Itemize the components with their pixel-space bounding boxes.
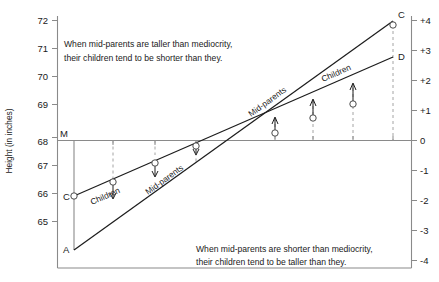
- endpoint-label-D: D: [398, 51, 405, 62]
- y-tick-right-0: +4: [420, 15, 431, 26]
- marker-children-0: [71, 193, 77, 199]
- endpoint-label-C-top: C: [398, 9, 405, 20]
- marker-children-6: [350, 101, 356, 107]
- chart-svg: 72 71 70 69 68 67 66 65 +4 +3 +2 +1 0: [0, 0, 439, 282]
- endpoint-label-A: A: [63, 244, 70, 255]
- y-tick-right-4: 0: [420, 135, 425, 146]
- marker-children-4: [272, 130, 278, 136]
- right-axis-tick-labels: +4 +3 +2 +1 0 -1 -2 -3 -4: [420, 15, 431, 266]
- y-tick-left-1: 71: [37, 43, 48, 54]
- annotation-bottom-line1: When mid-parents are shorter than medioc…: [196, 244, 373, 254]
- left-axis-ticks: [52, 21, 58, 222]
- y-tick-left-0: 72: [37, 15, 48, 26]
- mediocrity-line-group: M: [58, 128, 412, 145]
- y-tick-right-1: +3: [420, 45, 431, 56]
- annotation-top-note: When mid-parents are taller than mediocr…: [64, 39, 232, 63]
- marker-children-2: [152, 160, 158, 166]
- series-label-children-left: Children: [89, 185, 122, 207]
- y-tick-left-2: 70: [37, 71, 48, 82]
- y-axis-title: Height (in inches): [4, 108, 14, 173]
- series-inline-labels: Children Mid-parents Mid-parents Childre…: [89, 62, 353, 207]
- mediocrity-label-M: M: [60, 128, 68, 139]
- y-tick-right-2: +2: [420, 75, 431, 86]
- marker-children-5: [310, 115, 316, 121]
- y-tick-left-6: 66: [37, 188, 48, 199]
- endpoint-label-C-left: C: [63, 191, 70, 202]
- y-tick-right-6: -2: [420, 195, 428, 206]
- marker-children-7: [390, 22, 396, 28]
- y-tick-right-3: +1: [420, 105, 431, 116]
- y-tick-left-4: 68: [37, 136, 48, 147]
- y-tick-right-7: -3: [420, 225, 428, 236]
- y-tick-right-5: -1: [420, 165, 428, 176]
- y-tick-left-3: 69: [37, 99, 48, 110]
- annotation-top-line2: their children tend to be shorter than t…: [64, 53, 222, 63]
- y-tick-right-8: -4: [420, 255, 428, 266]
- series-label-children-right: Children: [320, 62, 353, 84]
- y-tick-left-5: 67: [37, 160, 48, 171]
- annotation-top-line1: When mid-parents are taller than mediocr…: [64, 39, 232, 49]
- series-label-midparents-left: Mid-parents: [143, 163, 185, 197]
- marker-children-1: [110, 179, 116, 185]
- left-axis-tick-labels: 72 71 70 69 68 67 66 65: [37, 15, 48, 227]
- marker-children-3: [193, 143, 199, 149]
- right-axis-ticks: [412, 21, 418, 261]
- annotation-bottom-line2: their children tend to be taller than th…: [196, 257, 346, 267]
- annotation-bottom-note: When mid-parents are shorter than medioc…: [196, 244, 373, 267]
- children-line: [74, 57, 393, 196]
- y-tick-left-7: 65: [37, 216, 48, 227]
- galton-regression-figure: 72 71 70 69 68 67 66 65 +4 +3 +2 +1 0: [0, 0, 439, 282]
